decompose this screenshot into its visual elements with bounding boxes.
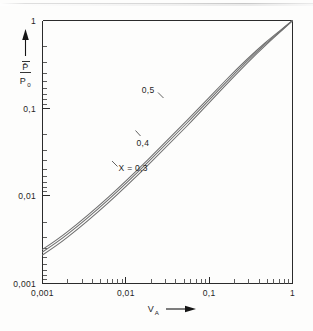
log-log-chart: 1 0,1 0,01 0,001 0,001 0,01 0,1 1 0,5 0,… (0, 0, 313, 331)
leader-0-5 (158, 93, 164, 99)
y-axis-ticks (43, 21, 50, 284)
x-axis-ticks (43, 277, 293, 284)
curve-label-0-4: 0,4 (137, 138, 150, 148)
y-tick-label-0-1: 0,1 (23, 104, 36, 114)
curve-label-x-0-3: Χ = 0,3 (119, 163, 148, 173)
curve-label-0-5: 0,5 (142, 85, 155, 95)
x-tick-label-0-001: 0,001 (31, 288, 54, 298)
figure-container: 1 0,1 0,01 0,001 0,001 0,01 0,1 1 0,5 0,… (0, 0, 313, 331)
leader-0-4 (136, 131, 141, 137)
x-axis-title-base: V (148, 304, 154, 314)
y-axis-numerator: P̄ (22, 62, 28, 72)
data-curves (43, 21, 293, 256)
x-axis-title-group: V A (148, 304, 196, 316)
y-axis-title-group: P̄ P 0 (20, 29, 31, 88)
x-tick-label-1: 1 (290, 288, 295, 298)
y-tick-label-0-01: 0,01 (18, 191, 36, 201)
curve-x-0-3 (43, 21, 293, 256)
y-tick-label-1: 1 (31, 16, 36, 26)
annotation-leaders (112, 93, 164, 167)
y-axis-denominator-sub: 0 (27, 81, 31, 88)
leader-x-0-3 (112, 161, 118, 167)
up-arrow-icon (22, 29, 29, 40)
x-tick-label-0-01: 0,01 (117, 288, 135, 298)
right-arrow-icon (185, 306, 196, 312)
x-tick-label-0-1: 0,1 (203, 288, 216, 298)
plot-frame (43, 21, 293, 284)
x-axis-title-sub: A (155, 309, 160, 316)
y-axis-denominator-base: P (20, 76, 26, 86)
